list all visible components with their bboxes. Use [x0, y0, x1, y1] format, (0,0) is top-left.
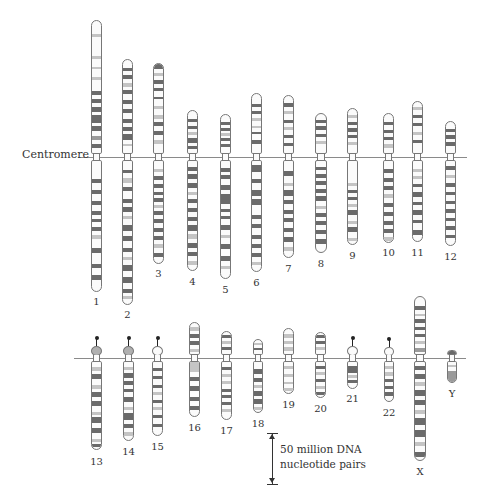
band: [348, 227, 357, 232]
band: [446, 175, 455, 178]
band: [221, 175, 230, 179]
band: [348, 375, 357, 378]
band: [316, 174, 326, 178]
q-arm: [445, 160, 456, 246]
band: [384, 169, 393, 173]
band: [92, 201, 101, 205]
q-arm: [253, 361, 263, 413]
band: [123, 265, 132, 271]
band: [348, 238, 357, 241]
band: [316, 221, 326, 226]
band: [384, 221, 393, 225]
band: [188, 208, 197, 212]
p-arm: [283, 95, 294, 154]
band: [123, 68, 132, 72]
centromere-label: Centromere: [22, 148, 89, 161]
band: [316, 239, 326, 244]
band: [124, 424, 133, 427]
band: [284, 200, 293, 204]
band: [252, 253, 261, 257]
p-arm: [251, 93, 262, 154]
band: [284, 347, 293, 350]
band: [348, 197, 357, 200]
chromosome-label: 1: [87, 296, 107, 307]
band: [413, 140, 422, 143]
band: [92, 374, 101, 378]
band: [415, 341, 425, 344]
q-arm: [347, 160, 358, 245]
band: [284, 388, 293, 391]
band: [153, 368, 162, 371]
band: [316, 120, 326, 123]
band: [92, 77, 101, 80]
band: [123, 187, 132, 191]
band: [254, 348, 262, 350]
band: [415, 430, 425, 437]
band: [154, 205, 163, 208]
band: [221, 266, 230, 270]
centromere-line-row1: [78, 157, 467, 158]
band: [284, 111, 293, 114]
band: [92, 428, 101, 433]
scale-bar-label-line1: 50 million DNA: [280, 442, 366, 457]
band: [284, 341, 293, 344]
q-arm: [412, 160, 423, 242]
band: [123, 134, 132, 140]
band: [413, 184, 422, 187]
band: [415, 390, 425, 396]
band: [188, 225, 197, 231]
band: [252, 165, 261, 172]
chromosome-label: 14: [119, 446, 139, 457]
band: [384, 194, 393, 197]
band: [123, 144, 132, 147]
band: [316, 341, 325, 344]
band: [252, 179, 261, 183]
band: [153, 400, 162, 404]
band: [124, 407, 133, 410]
band: [123, 277, 132, 283]
band: [123, 207, 132, 211]
band: [153, 392, 162, 395]
band: [385, 379, 393, 382]
band: [221, 144, 230, 147]
band: [415, 400, 425, 405]
q-arm: [91, 160, 102, 292]
chromosome-label: 9: [343, 250, 363, 261]
band: [154, 140, 163, 144]
q-arm: [283, 160, 294, 258]
q-arm: [414, 361, 426, 461]
band: [221, 194, 230, 204]
band: [284, 183, 293, 187]
band: [222, 395, 231, 398]
band: [221, 256, 230, 261]
band: [446, 166, 455, 169]
band: [153, 385, 162, 388]
q-arm: [152, 361, 163, 436]
band: [92, 444, 101, 448]
band: [92, 179, 101, 183]
band: [188, 234, 197, 238]
satellite-knob: [387, 337, 391, 341]
band: [446, 235, 455, 238]
q-arm: [347, 361, 358, 389]
band: [316, 366, 325, 369]
band: [415, 382, 425, 386]
band: [92, 56, 101, 59]
band: [154, 73, 163, 76]
band: [188, 146, 197, 149]
band: [316, 379, 325, 382]
chromosome-label: Y: [442, 388, 462, 399]
q-arm: [153, 160, 164, 264]
satellite-knob: [156, 336, 160, 340]
q-arm: [187, 160, 198, 271]
band: [221, 168, 230, 172]
p-arm: [220, 114, 231, 154]
q-arm: [220, 160, 231, 279]
scale-bar-down-arrow-icon: [269, 478, 275, 483]
band: [188, 199, 197, 203]
band: [123, 109, 132, 113]
band: [348, 210, 357, 215]
band: [188, 167, 197, 171]
band: [254, 407, 262, 410]
band: [221, 244, 230, 249]
